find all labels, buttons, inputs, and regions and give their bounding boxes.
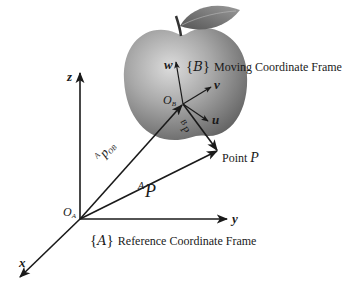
point-name: P <box>250 150 259 165</box>
y-axis-label: y <box>232 212 238 225</box>
reference-frame-title: {A} Reference Coordinate Frame <box>90 232 256 248</box>
x-axis <box>20 219 80 277</box>
origin-B-subscript: B <box>172 100 176 108</box>
brace-close: } <box>107 232 114 248</box>
frame-A-symbol: A <box>97 233 106 248</box>
origin-A-letter: O <box>63 205 72 219</box>
w-axis-label: w <box>164 58 173 71</box>
x-axis-label: x <box>19 256 26 269</box>
origin-A-label: OA <box>63 206 76 220</box>
z-axis-label: z <box>67 70 72 83</box>
moving-frame-label: Moving Coordinate Frame <box>214 60 342 74</box>
u-axis-label: u <box>212 113 219 126</box>
diagram-canvas <box>0 0 344 294</box>
apple-leaf <box>180 6 240 30</box>
v-axis-label: v <box>214 78 220 91</box>
point-prefix: Point <box>222 151 250 165</box>
coordinate-frame-diagram: z y x OA OB w v u {B} Moving Coordinate … <box>0 0 344 294</box>
vector-superscript: A <box>138 180 144 191</box>
frame-B-symbol: B <box>193 59 203 74</box>
vector-A-P-label: AP <box>138 181 156 200</box>
origin-B-letter: O <box>163 93 172 107</box>
moving-frame-title: {B} Moving Coordinate Frame <box>186 58 342 74</box>
origin-A-subscript: A <box>72 212 76 220</box>
reference-frame-label: Reference Coordinate Frame <box>118 234 257 248</box>
origin-B-label: OB <box>163 94 176 108</box>
vector-letter: P <box>145 181 156 201</box>
vector-A-p-OB <box>80 105 182 219</box>
brace-close: } <box>203 58 210 74</box>
point-P-label: Point P <box>222 151 259 165</box>
